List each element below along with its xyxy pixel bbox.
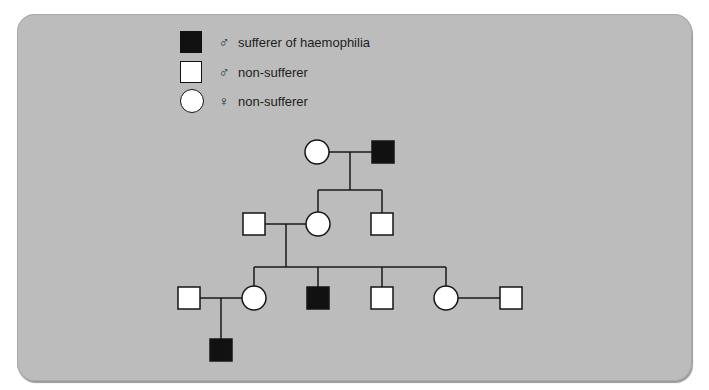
affected-male-square [372,141,394,163]
affected-male-square [307,287,329,309]
unaffected-male-square [371,213,393,235]
unaffected-male-square [178,287,200,309]
pedigree-chart [0,0,709,390]
unaffected-male-square [243,213,265,235]
unaffected-male-square [371,287,393,309]
unaffected-female-circle [242,286,266,310]
unaffected-female-circle [434,286,458,310]
unaffected-female-circle [305,140,329,164]
affected-male-square [210,339,232,361]
unaffected-female-circle [306,212,330,236]
unaffected-male-square [500,287,522,309]
